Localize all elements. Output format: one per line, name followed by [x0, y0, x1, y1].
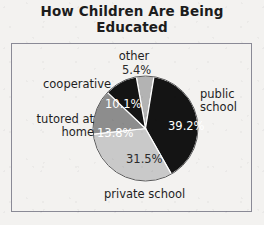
- slice-value-other: 5.4%: [122, 63, 151, 77]
- category-label-other-line-1: other: [113, 50, 155, 63]
- slice-value-tutored-at-home: 13.8%: [97, 126, 134, 140]
- category-label-cooperative: cooperative: [43, 78, 111, 91]
- category-label-tutored-at-home: tutored at home: [27, 113, 94, 139]
- category-label-tutored-at-home-line-2: home: [27, 126, 94, 139]
- category-label-public-school-line-2: school: [200, 101, 237, 114]
- category-label-cooperative-line-1: cooperative: [43, 78, 111, 91]
- category-label-public-school: public school: [200, 88, 237, 114]
- slice-value-cooperative: 10.1%: [105, 97, 142, 111]
- slice-value-private-school: 31.5%: [126, 152, 163, 166]
- category-label-other: other: [113, 50, 155, 63]
- slice-value-public-school: 39.2%: [168, 119, 205, 133]
- category-label-private-school-line-1: private school: [104, 188, 185, 201]
- chart-page: How Children Are Being Educated 39.2% 31…: [0, 0, 264, 225]
- category-label-private-school: private school: [104, 188, 185, 201]
